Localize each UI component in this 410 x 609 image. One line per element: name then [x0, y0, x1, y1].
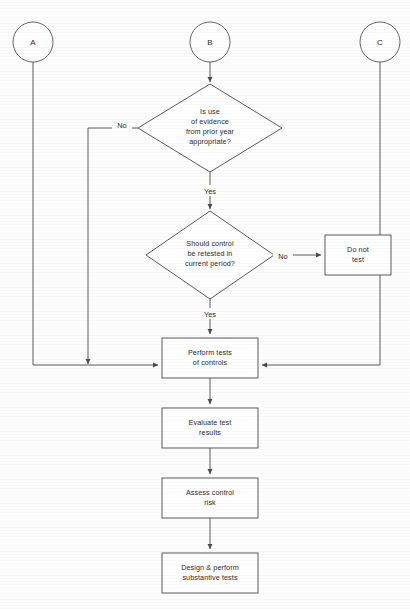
process-design-substantive-tests-line-1: Design & perform [181, 563, 239, 572]
connector-a[interactable]: A [13, 22, 53, 62]
connector-a-label: A [30, 38, 36, 47]
process-perform-tests-of-controls-line-1: Perform tests [188, 348, 232, 357]
process-assess-control-risk-line-2: risk [204, 498, 216, 507]
decision-retest-control[interactable]: Should control be retested in current pe… [146, 211, 274, 299]
decision-retest-control-line-1: Should control [186, 239, 234, 248]
decision-prior-year-evidence-line-3: from prior year [186, 127, 235, 136]
flowchart-svg: A B C Is use of evidence from prior year… [0, 0, 410, 609]
process-do-not-test[interactable]: Do not test [325, 235, 391, 275]
connector-b-label: B [207, 38, 212, 47]
process-perform-tests-of-controls[interactable]: Perform tests of controls [162, 338, 258, 378]
label-yes-prior-year: Yes [204, 187, 216, 196]
process-evaluate-test-results-line-1: Evaluate test [189, 418, 232, 427]
label-no-retest: No [278, 252, 287, 261]
decision-prior-year-evidence[interactable]: Is use of evidence from prior year appro… [138, 84, 282, 172]
edge-no-prior-year-to-perform-tests [88, 128, 138, 364]
connector-c[interactable]: C [360, 22, 400, 62]
process-perform-tests-of-controls-line-2: of controls [193, 358, 228, 367]
decision-prior-year-evidence-line-4: appropriate? [189, 137, 231, 146]
process-design-substantive-tests[interactable]: Design & perform substantive tests [162, 553, 258, 593]
edge-a-to-perform-tests [33, 62, 158, 365]
process-design-substantive-tests-line-2: substantive tests [182, 573, 238, 582]
process-assess-control-risk-line-1: Assess control [186, 488, 234, 497]
process-do-not-test-line-2: test [352, 255, 364, 264]
decision-retest-control-line-2: be retested in [188, 249, 233, 258]
label-no-prior-year: No [117, 121, 126, 130]
decision-prior-year-evidence-line-2: of evidence [191, 117, 229, 126]
decision-retest-control-line-3: current period? [185, 259, 235, 268]
flowchart-canvas: A B C Is use of evidence from prior year… [0, 0, 410, 609]
process-evaluate-test-results-line-2: results [199, 428, 221, 437]
edge-c-to-perform-tests [262, 62, 380, 365]
process-do-not-test-line-1: Do not [347, 245, 369, 254]
connector-c-label: C [377, 38, 383, 47]
decision-prior-year-evidence-line-1: Is use [200, 107, 220, 116]
connector-b[interactable]: B [190, 22, 230, 62]
process-assess-control-risk[interactable]: Assess control risk [162, 478, 258, 518]
label-yes-retest: Yes [204, 310, 216, 319]
process-evaluate-test-results[interactable]: Evaluate test results [162, 408, 258, 448]
